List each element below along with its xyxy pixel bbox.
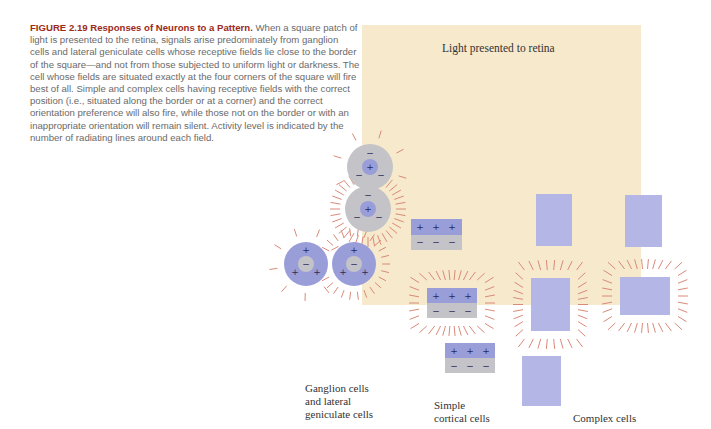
label-simple-2: cortical cells [434,412,490,424]
svg-text:−: − [375,212,383,222]
svg-text:+: + [466,346,474,356]
complex-cell-5 [522,356,561,406]
svg-text:−: − [377,170,385,180]
svg-text:+: + [432,291,440,301]
svg-text:−: − [432,306,440,316]
svg-text:−: − [353,212,361,222]
svg-text:−: − [355,170,363,180]
light-label: Light presented to retina [442,42,555,55]
svg-text:−: − [364,190,372,200]
svg-text:−: − [350,259,358,269]
svg-text:+: + [416,222,424,232]
svg-text:+: + [291,267,299,277]
svg-text:−: − [448,237,456,247]
svg-text:−: − [432,237,440,247]
svg-text:+: + [313,267,321,277]
svg-text:−: − [416,237,424,247]
svg-text:+: + [482,346,490,356]
svg-text:+: + [302,245,310,255]
label-complex: Complex cells [573,412,636,424]
label-ganglion-2: and lateral [305,395,351,407]
label-ganglion-1: Ganglion cells [305,382,369,394]
svg-text:−: − [464,306,472,316]
svg-text:+: + [448,291,456,301]
label-ganglion-3: geniculate cells [305,408,373,420]
svg-text:+: + [366,162,374,172]
svg-text:−: − [482,361,490,371]
complex-cell-3 [531,278,570,331]
svg-text:−: − [448,306,456,316]
svg-text:+: + [364,204,372,214]
svg-text:−: − [366,148,374,158]
neuron-response-diagram: Light presented to retina +−−−+−−−−+++−+… [0,0,711,429]
svg-text:+: + [339,267,347,277]
svg-text:+: + [464,291,472,301]
svg-text:−: − [450,361,458,371]
complex-cell-1 [536,194,572,246]
svg-text:+: + [350,245,358,255]
svg-text:+: + [432,222,440,232]
svg-text:−: − [466,361,474,371]
svg-text:−: − [302,259,310,269]
svg-text:+: + [361,267,369,277]
svg-text:+: + [450,346,458,356]
complex-cell-2 [625,195,662,247]
svg-text:+: + [448,222,456,232]
label-simple-1: Simple [434,399,465,411]
complex-cell-4 [620,277,670,315]
light-square [362,25,641,305]
